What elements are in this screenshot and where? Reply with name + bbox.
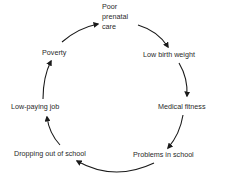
node-poor-prenatal-care-line2: prenatal: [102, 12, 128, 22]
node-poor-prenatal-care: Poor prenatal care: [102, 2, 128, 32]
node-poor-prenatal-care-line1: Poor: [102, 2, 128, 12]
arrow-poverty-to-poor-prenatal-care: [62, 24, 98, 42]
node-medical-fitness: Medical fitness: [158, 102, 206, 112]
node-dropping-out-of-school: Dropping out of school: [14, 149, 86, 159]
arrow-poor-prenatal-care-to-low-birth-weight: [138, 25, 168, 47]
node-poverty: Poverty: [42, 48, 66, 58]
node-problems-in-school: Problems in school: [133, 150, 194, 160]
node-low-birth-weight: Low birth weight: [143, 50, 195, 60]
arrow-low-paying-job-to-poverty: [43, 61, 51, 99]
arrow-dropping-out-to-low-paying-job: [47, 117, 60, 145]
arrow-low-birth-weight-to-medical-fitness: [179, 63, 187, 96]
arrow-medical-fitness-to-problems-in-school: [168, 115, 183, 148]
node-low-paying-job: Low-paying job: [11, 102, 59, 112]
node-poor-prenatal-care-line3: care: [102, 22, 128, 32]
arrow-problems-to-dropping-out: [77, 161, 154, 172]
